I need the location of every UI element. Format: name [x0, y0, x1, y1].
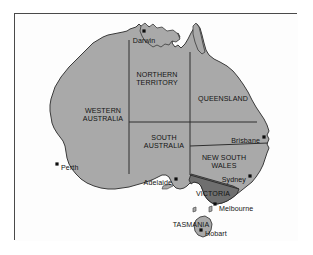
city-dot-brisbane: [262, 135, 265, 138]
state-label-tas: TASMANIA: [173, 221, 210, 229]
city-dot-hobart: [199, 228, 202, 231]
state-label-line1: VICTORIA: [196, 190, 230, 198]
city-dot-perth: [55, 162, 58, 165]
state-label-line1: TASMANIA: [173, 221, 210, 229]
city-label-sydney: Sydney: [222, 176, 247, 184]
map-frame-border: WESTERNAUSTRALIANORTHERNTERRITORYQUEENSL…: [14, 13, 297, 240]
city-dot-sydney: [248, 174, 251, 177]
city-label-melbourne: Melbourne: [219, 205, 253, 213]
australia-map-figure: WESTERNAUSTRALIANORTHERNTERRITORYQUEENSL…: [0, 0, 313, 255]
state-label-qld: QUEENSLAND: [198, 95, 248, 103]
city-dot-melbourne: [213, 202, 216, 205]
state-label-line1: SOUTH: [151, 134, 176, 142]
city-label-brisbane: Brisbane: [231, 137, 260, 145]
city-label-adelaide: Adelaide: [144, 179, 172, 187]
state-label-line1: NORTHERN: [137, 71, 178, 79]
state-label-line2: AUSTRALIA: [83, 115, 123, 123]
city-label-perth: Perth: [61, 164, 78, 172]
state-label-line1: QUEENSLAND: [198, 95, 248, 103]
state-label-line2: AUSTRALIA: [144, 142, 184, 150]
state-label-wa: WESTERNAUSTRALIA: [83, 107, 123, 123]
state-label-line1: WESTERN: [85, 107, 121, 115]
city-dot-adelaide: [174, 177, 177, 180]
state-label-line1: NEW SOUTH: [202, 154, 246, 162]
city-dot-darwin: [142, 29, 145, 32]
state-label-vic: VICTORIA: [196, 190, 230, 198]
state-label-line2: WALES: [211, 162, 236, 170]
city-label-hobart: Hobart: [205, 230, 227, 238]
bass-strait-islet-west: [193, 207, 196, 212]
bass-strait-islet-east: [209, 206, 212, 212]
state-label-nt: NORTHERNTERRITORY: [136, 71, 178, 87]
city-label-darwin: Darwin: [133, 37, 156, 45]
state-label-line2: TERRITORY: [136, 79, 178, 87]
australia-map-svg: WESTERNAUSTRALIANORTHERNTERRITORYQUEENSL…: [15, 14, 298, 241]
